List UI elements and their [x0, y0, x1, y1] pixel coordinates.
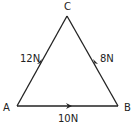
vertex-label-c: C — [64, 1, 71, 12]
edge-label-10n: 10N — [58, 113, 78, 124]
force-triangle-diagram: C A B 12N 8N 10N — [0, 0, 133, 125]
vertex-label-b: B — [124, 102, 131, 113]
edge-label-8n: 8N — [100, 53, 114, 64]
edge-label-12n: 12N — [20, 53, 40, 64]
vertex-label-a: A — [3, 102, 10, 113]
